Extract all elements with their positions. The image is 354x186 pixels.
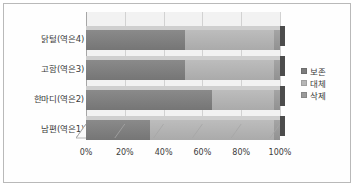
bar-side-face [280, 56, 285, 76]
legend-label: 보존 [310, 65, 326, 77]
x-axis-tick-label: 60% [194, 148, 212, 157]
square-swatch-icon [301, 68, 307, 74]
x-axis-tick-mark [115, 124, 125, 138]
bar-row [86, 60, 280, 80]
x-axis-tick-label: 100% [269, 148, 292, 157]
stacked-bar [86, 60, 280, 80]
stacked-bar [86, 30, 280, 50]
bar-segment-대체 [185, 30, 274, 50]
x-axis-tick-mark [192, 124, 202, 138]
x-axis-tick-label: 0% [80, 148, 93, 157]
plot-area [86, 12, 280, 144]
bar-side-face [280, 26, 285, 46]
legend-label: 대체 [310, 77, 326, 89]
x-axis-tick-mark [231, 124, 241, 138]
y-axis-category-label: 남편(역은1) [2, 122, 84, 134]
chart-container: 닭털(역은4)고함(역은3)한마디(역은2)남편(역은1) 0%20%40%60… [0, 0, 354, 186]
x-axis-tick-labels: 0%20%40%60%80%100% [86, 148, 296, 162]
legend-item: 대체 [301, 77, 347, 88]
square-swatch-icon [301, 92, 307, 98]
bar-segment-대체 [185, 60, 274, 80]
chart-legend: 보존대체삭제 [301, 65, 347, 101]
x-axis-tick-label: 80% [232, 148, 250, 157]
bar-side-face [280, 116, 285, 136]
bar-side-face [280, 86, 285, 106]
bar-segment-보존 [86, 60, 185, 80]
bar-segment-대체 [212, 90, 274, 110]
y-axis-category-label: 닭털(역은4) [2, 32, 84, 44]
x-axis-tick-mark [154, 124, 164, 138]
x-axis-tick-label: 40% [155, 148, 173, 157]
stacked-bar [86, 90, 280, 110]
legend-item: 보존 [301, 65, 347, 76]
y-axis-category-labels: 닭털(역은4)고함(역은3)한마디(역은2)남편(역은1) [0, 12, 84, 144]
x-axis-tick-mark [76, 124, 86, 138]
bar-row [86, 90, 280, 110]
y-axis-category-label: 고함(역은3) [2, 62, 84, 74]
bar-row [86, 30, 280, 50]
x-axis-tick-marks [76, 124, 280, 146]
y-axis-category-label: 한마디(역은2) [2, 92, 84, 104]
legend-item: 삭제 [301, 89, 347, 100]
x-axis-tick-mark [270, 124, 280, 138]
square-swatch-icon [301, 80, 307, 86]
x-axis-tick-label: 20% [116, 148, 134, 157]
legend-label: 삭제 [310, 89, 326, 101]
bar-segment-보존 [86, 90, 212, 110]
bar-segment-보존 [86, 30, 185, 50]
